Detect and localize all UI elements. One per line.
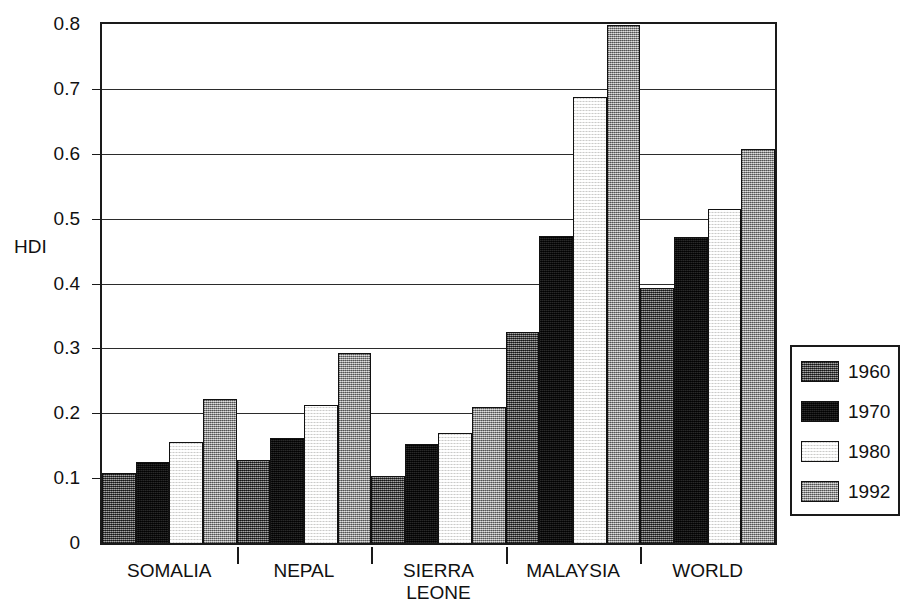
y-axis-title: HDI [14,236,47,258]
legend-swatch-1980 [801,441,839,462]
category-label-line1: NEPAL [237,560,372,582]
category-label: WORLD [640,560,775,582]
bar-group [102,24,237,543]
bar-1992-world[interactable] [741,149,775,543]
bar-1992-malaysia[interactable] [607,25,641,543]
bar-1960-nepal[interactable] [237,460,271,543]
category-label-line1: SIERRA [371,560,506,582]
legend-label-1970: 1970 [848,402,890,421]
category-label-line2: LEONE [371,582,506,604]
category-label-line1: WORLD [640,560,775,582]
legend-swatch-1992 [801,481,839,502]
y-tick-label: 0.3 [24,338,80,357]
bar-1970-nepal[interactable] [270,438,304,543]
legend-label-1980: 1980 [848,442,890,461]
bar-1970-world[interactable] [674,237,708,543]
bar-1980-world[interactable] [708,209,742,543]
bar-series-layer [102,24,775,543]
legend-item-1970[interactable]: 1970 [801,400,897,423]
bar-1980-sierra-leone[interactable] [438,433,472,543]
bar-1960-malaysia[interactable] [506,332,540,543]
legend-item-1980[interactable]: 1980 [801,440,897,463]
legend-item-1992[interactable]: 1992 [801,480,897,503]
category-label: NEPAL [237,560,372,582]
bar-group [640,24,775,543]
y-tick-label: 0.5 [24,209,80,228]
category-label: MALAYSIA [506,560,641,582]
y-tick-label: 0 [24,533,80,552]
category-label: SOMALIA [102,560,237,582]
bar-1970-sierra-leone[interactable] [405,444,439,543]
legend-item-1960[interactable]: 1960 [801,360,897,383]
bar-1992-sierra-leone[interactable] [472,407,506,543]
legend-swatch-1970 [801,401,839,422]
bar-group [506,24,641,543]
legend-label-1992: 1992 [848,482,890,501]
bar-group [237,24,372,543]
bar-1992-somalia[interactable] [203,399,237,543]
bar-1980-somalia[interactable] [169,442,203,543]
y-tick-label: 0.4 [24,274,80,293]
bar-1970-somalia[interactable] [136,462,170,543]
bar-1992-nepal[interactable] [338,353,372,543]
category-label-line1: MALAYSIA [506,560,641,582]
bar-group [371,24,506,543]
bar-1980-nepal[interactable] [304,405,338,543]
y-tick-label: 0.1 [24,468,80,487]
chart-figure: 0.80.70.60.50.40.30.20.10 HDI SOMALIANEP… [0,0,912,614]
legend-label-1960: 1960 [848,362,890,381]
bar-1960-sierra-leone[interactable] [371,476,405,543]
legend-swatch-1960 [801,361,839,382]
category-label: SIERRALEONE [371,560,506,604]
y-tick-label: 0.8 [24,14,80,33]
bar-1960-somalia[interactable] [102,473,136,543]
bar-1980-malaysia[interactable] [573,97,607,543]
bar-1970-malaysia[interactable] [539,236,573,543]
category-label-line1: SOMALIA [102,560,237,582]
y-tick-label: 0.2 [24,403,80,422]
bar-1960-world[interactable] [640,288,674,543]
legend[interactable]: 1960197019801992 [790,345,900,516]
y-tick-label: 0.6 [24,144,80,163]
y-tick-label: 0.7 [24,79,80,98]
